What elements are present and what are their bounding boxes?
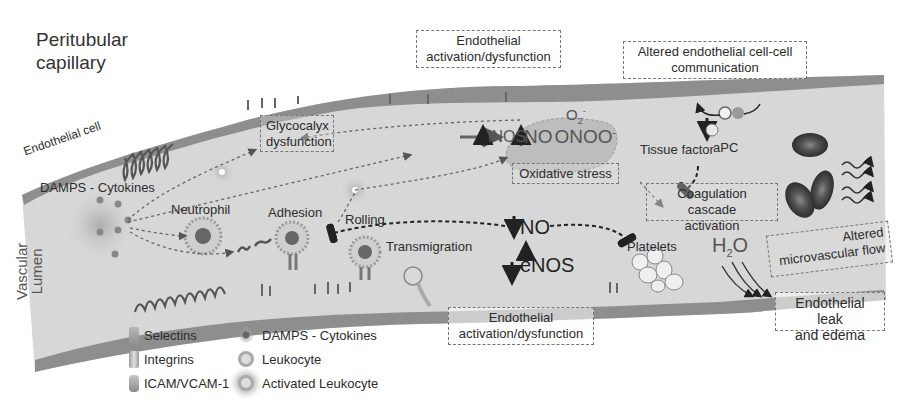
legend-label: ICAM/VCAM-1 bbox=[144, 376, 229, 391]
neutrophil-label: Neutrophil bbox=[171, 203, 230, 218]
damps-cytokines-label: DAMPS - Cytokines bbox=[40, 181, 155, 196]
endothelial-leak-box: Endothelial leak and edema bbox=[775, 292, 885, 331]
box-line-2: and edema bbox=[781, 327, 879, 343]
legend-label: Leukocyte bbox=[262, 352, 321, 367]
endothelial-activation-top-box: Endothelial activation/dysfunction bbox=[416, 30, 561, 68]
neutrophil-cell bbox=[185, 218, 221, 254]
title-line-1: Peritubular bbox=[36, 28, 128, 51]
legend-item-activated-leukocyte: Activated Leukocyte bbox=[238, 375, 378, 391]
peritubular-capillary-diagram: Peritubular capillary Endothelial cell V… bbox=[0, 0, 910, 416]
vascular-lumen-line-2: Lumen bbox=[29, 243, 44, 300]
selectin-icon bbox=[129, 327, 139, 344]
endothelial-activation-bottom-box: Endothelial activation/dysfunction bbox=[448, 307, 594, 345]
box-line-2: dysfunction bbox=[266, 134, 328, 150]
legend-label: DAMPS - Cytokines bbox=[262, 328, 377, 343]
box-line-1: Endothelial bbox=[422, 33, 555, 49]
legend-item-icam-vcam: ICAM/VCAM-1 bbox=[129, 375, 229, 392]
leukocyte-icon bbox=[238, 351, 254, 367]
superoxide-label: O2- bbox=[566, 106, 586, 126]
damps-cytokine-icon bbox=[238, 327, 254, 343]
no-oxidative-label: NOONOO- bbox=[524, 126, 616, 148]
legend-label: Activated Leukocyte bbox=[262, 376, 378, 391]
box-line-1: Oxidative stress bbox=[518, 166, 613, 182]
onoo-charge: - bbox=[613, 127, 616, 138]
vascular-lumen-label: Vascular Lumen bbox=[14, 243, 44, 300]
box-line-2: activation/dysfunction bbox=[454, 326, 588, 342]
legend-item-leukocyte: Leukocyte bbox=[238, 351, 321, 367]
figure-title: Peritubular capillary bbox=[36, 28, 128, 74]
o2-charge: - bbox=[583, 106, 586, 116]
o2-subscript: 2 bbox=[578, 116, 583, 126]
inos-label: iNOS bbox=[488, 128, 526, 146]
box-line-2: activation bbox=[652, 218, 772, 234]
vascular-lumen-line-1: Vascular bbox=[14, 243, 29, 300]
legend-item-selectins: Selectins bbox=[129, 327, 197, 344]
oxidative-stress-box: Oxidative stress bbox=[512, 163, 619, 184]
apc-label: aPC bbox=[713, 141, 738, 156]
legend-label: Integrins bbox=[144, 352, 194, 367]
apc-cell bbox=[706, 124, 718, 136]
onoo-text: ONOO bbox=[555, 126, 613, 147]
enos-label: eNOS bbox=[520, 254, 574, 277]
glycocalyx-dysfunction-box: Glycocalyx dysfunction bbox=[260, 115, 334, 152]
h2o-h: H bbox=[712, 234, 726, 256]
box-line-1: Altered endothelial cell-cell bbox=[629, 44, 801, 60]
legend-item-integrins: Integrins bbox=[129, 351, 194, 368]
tissue-factor-label: Tissue factor bbox=[640, 143, 714, 158]
o2-text: O bbox=[566, 106, 578, 123]
rolling-label: Rolling bbox=[345, 213, 385, 228]
h2o-o: O bbox=[733, 234, 749, 256]
no-label: NO bbox=[520, 216, 550, 239]
legend-item-damps: DAMPS - Cytokines bbox=[238, 327, 377, 343]
platelets-label: Platelets bbox=[627, 240, 677, 255]
activated-leukocyte-icon bbox=[238, 375, 254, 391]
altered-communication-box: Altered endothelial cell-cell communicat… bbox=[623, 41, 807, 79]
box-line-1: Endothelial bbox=[454, 310, 588, 326]
no-text: NO bbox=[524, 126, 553, 147]
box-line-1: Endothelial leak bbox=[781, 295, 879, 327]
box-line-1: Coagulation cascade bbox=[652, 186, 772, 218]
box-line-2: activation/dysfunction bbox=[422, 49, 555, 65]
adhesion-label: Adhesion bbox=[268, 206, 322, 221]
coagulation-cascade-box: Coagulation cascade activation bbox=[646, 183, 778, 221]
h2o-label: H2O bbox=[712, 234, 748, 260]
integrin-icon bbox=[129, 351, 139, 368]
transmigration-label: Transmigration bbox=[386, 240, 472, 255]
box-line-1: Glycocalyx bbox=[266, 118, 328, 134]
legend-label: Selectins bbox=[144, 328, 197, 343]
box-line-2: communication bbox=[629, 60, 801, 76]
icam-vcam-icon bbox=[129, 375, 139, 392]
title-line-2: capillary bbox=[36, 51, 128, 74]
